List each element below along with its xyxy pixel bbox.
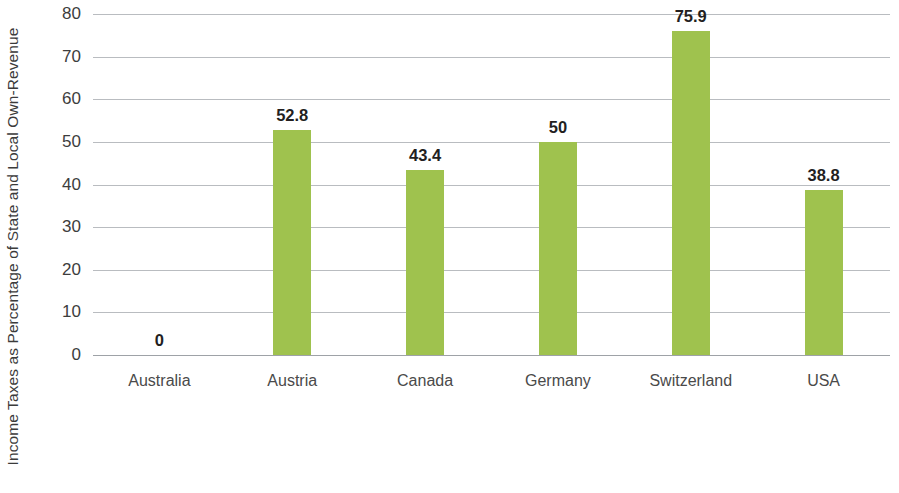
bar-group: 38.8 [757,14,890,355]
bar-value-label: 43.4 [409,146,441,165]
bar [539,142,577,355]
bar-group: 52.8 [226,14,359,355]
bar-group: 43.4 [359,14,492,355]
x-axis-category-label: Austria [267,372,317,390]
x-axis-category-label: Germany [525,372,591,390]
x-axis-category-label: USA [807,372,840,390]
bar-group: 75.9 [624,14,757,355]
y-axis-tick-label: 0 [72,345,81,365]
bar [672,31,710,355]
bar-series: 052.843.45075.938.8 [93,14,890,355]
bar [406,170,444,355]
x-axis-line [93,355,890,356]
y-axis-title: Income Taxes as Percentage of State and … [0,0,26,493]
y-axis-tick-label: 60 [62,89,81,109]
y-axis-tick-label: 50 [62,132,81,152]
bar-value-label: 52.8 [276,106,308,125]
y-axis-tick-label: 40 [62,175,81,195]
y-axis-tick-label: 30 [62,217,81,237]
bar-value-label: 38.8 [808,166,840,185]
y-axis-tick-label: 10 [62,302,81,322]
y-axis-tick-label: 80 [62,4,81,24]
x-axis-category-label: Canada [397,372,453,390]
bar [273,130,311,355]
x-axis-category-label: Switzerland [649,372,732,390]
y-axis-tick-label: 20 [62,260,81,280]
bar-value-label: 75.9 [675,7,707,26]
bar-chart: Income Taxes as Percentage of State and … [0,0,899,493]
bar-group: 50 [492,14,625,355]
bar-group: 0 [93,14,226,355]
x-axis-category-label: Australia [128,372,190,390]
y-axis-tick-label: 70 [62,47,81,67]
x-axis-category-labels: AustraliaAustriaCanadaGermanySwitzerland… [93,372,890,404]
plot-area: 01020304050607080 052.843.45075.938.8 [93,14,890,355]
bar [805,190,843,355]
bar-value-label: 50 [549,118,567,137]
bar-value-label: 0 [155,331,164,350]
